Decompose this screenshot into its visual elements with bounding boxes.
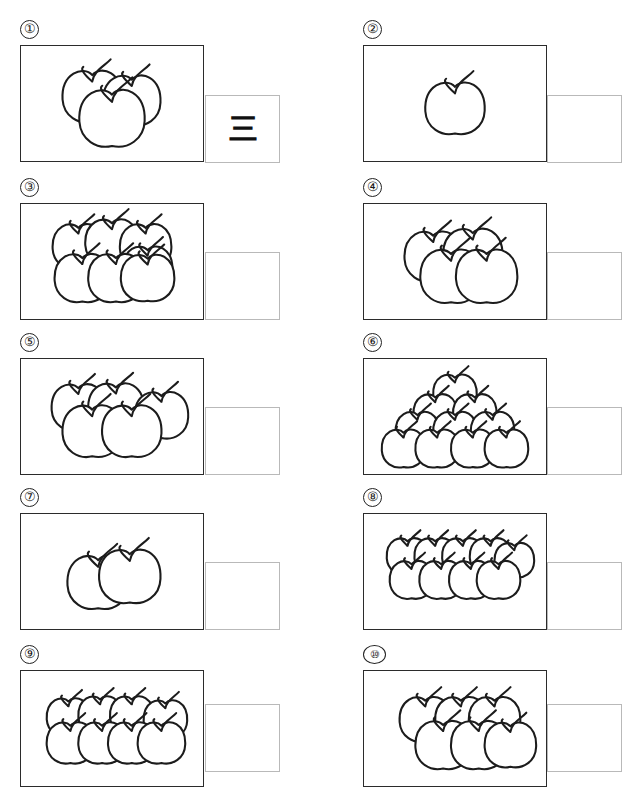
item-number-badge: ⑧ (363, 488, 382, 507)
answer-box[interactable] (547, 407, 622, 475)
worksheet-page: ①三②③④⑤⑥⑦⑧⑨⑩ (0, 0, 640, 796)
answer-box[interactable] (547, 562, 622, 630)
answer-box[interactable] (547, 95, 622, 163)
apple-group (21, 359, 203, 474)
item-number-badge: ④ (363, 178, 382, 197)
answer-box[interactable] (205, 407, 280, 475)
answer-box[interactable] (205, 704, 280, 772)
item-number-badge: ① (20, 20, 39, 39)
apple-group (21, 671, 203, 786)
apple-drawing (99, 538, 160, 603)
apple-group (364, 514, 546, 629)
item-number-badge: ③ (20, 178, 39, 197)
apple-picture-box (363, 358, 547, 475)
apple-picture-box (20, 670, 204, 787)
apple-picture-box (363, 45, 547, 162)
apple-group (364, 46, 546, 161)
answer-box[interactable]: 三 (205, 95, 280, 163)
item-number-badge: ⑦ (20, 488, 39, 507)
apple-picture-box (363, 203, 547, 320)
answer-box[interactable] (547, 252, 622, 320)
apple-picture-box (20, 203, 204, 320)
apple-picture-box (20, 358, 204, 475)
item-number-badge: ⑥ (363, 333, 382, 352)
apple-drawing (425, 71, 484, 134)
item-number-badge: ⑤ (20, 333, 39, 352)
apple-picture-box (363, 513, 547, 630)
apple-group (21, 204, 203, 319)
apple-picture-box (20, 45, 204, 162)
apple-group (21, 46, 203, 161)
apple-group (364, 359, 546, 474)
apple-picture-box (20, 513, 204, 630)
apple-group (21, 514, 203, 629)
apple-picture-box (363, 670, 547, 787)
item-number-badge: ⑩ (363, 645, 386, 664)
apple-group (364, 671, 546, 786)
answer-box[interactable] (547, 704, 622, 772)
apple-group (364, 204, 546, 319)
item-number-badge: ⑨ (20, 645, 39, 664)
item-number-badge: ② (363, 20, 382, 39)
answer-box[interactable] (205, 252, 280, 320)
answer-box[interactable] (205, 562, 280, 630)
answer-text: 三 (206, 114, 279, 144)
